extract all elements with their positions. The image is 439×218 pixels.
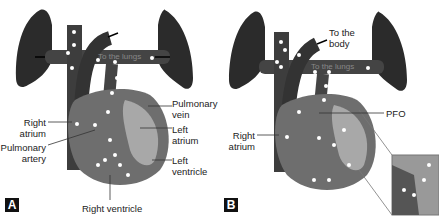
right-lung-icon	[372, 12, 407, 91]
left-lung-icon	[229, 12, 265, 90]
label-left-ventricle: Left ventricle	[172, 155, 207, 177]
panel-badge-b: B	[224, 198, 238, 212]
label-pulmonary-artery: Pulmonary artery	[0, 142, 46, 164]
label-pulmonary-vein: Pulmonary vein	[172, 98, 217, 120]
panel-badge-a: A	[5, 198, 19, 212]
label-to-lungs: To the lungs	[98, 52, 141, 61]
left-lung-icon	[16, 10, 52, 88]
right-lung-icon	[158, 10, 193, 89]
label-right-atrium: Right atrium	[219, 130, 255, 152]
label-to-lungs: To the lungs	[311, 62, 354, 71]
label-right-ventricle: Right ventricle	[82, 203, 142, 214]
label-to-the-body: To the body	[329, 27, 355, 49]
panel-b-pfo-heart: To the body PFO Right atrium To the lung…	[219, 0, 438, 218]
label-pfo: PFO	[386, 108, 406, 119]
panel-a-normal-heart: Pulmonary vein Left atrium Left ventricl…	[0, 0, 219, 218]
label-right-atrium: Right atrium	[10, 117, 46, 139]
label-left-atrium: Left atrium	[172, 124, 198, 146]
